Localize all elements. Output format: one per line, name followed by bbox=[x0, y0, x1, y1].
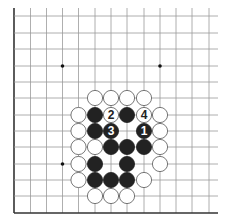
black-stone-move-3: 3 bbox=[103, 123, 118, 138]
star-point-icon bbox=[61, 64, 65, 68]
star-point-icon bbox=[61, 162, 65, 166]
white-stone-icon bbox=[152, 139, 167, 154]
black-stone bbox=[103, 172, 118, 187]
white-stone-icon bbox=[87, 188, 102, 203]
white-stone-icon bbox=[103, 188, 118, 203]
black-stone-icon bbox=[119, 172, 134, 187]
white-stone-icon bbox=[71, 123, 86, 138]
white-stone-icon bbox=[87, 139, 102, 154]
white-stone-icon bbox=[103, 90, 118, 105]
white-stone-icon bbox=[152, 156, 167, 171]
white-stone bbox=[103, 90, 118, 105]
white-stone-icon bbox=[152, 107, 167, 122]
white-stone bbox=[119, 90, 134, 105]
black-stone bbox=[87, 123, 102, 138]
move-number-label: 3 bbox=[108, 124, 115, 138]
white-stone bbox=[71, 107, 86, 122]
black-stone-icon bbox=[87, 107, 102, 122]
black-stone-icon bbox=[119, 139, 134, 154]
white-stone-icon bbox=[136, 172, 151, 187]
black-stone-icon bbox=[119, 107, 134, 122]
black-stone-icon bbox=[119, 156, 134, 171]
white-stone-icon bbox=[119, 188, 134, 203]
white-stone-icon bbox=[71, 139, 86, 154]
go-board: 2431 bbox=[0, 0, 227, 222]
move-number-label: 1 bbox=[141, 124, 148, 138]
white-stone-icon bbox=[136, 90, 151, 105]
white-stone-icon bbox=[71, 156, 86, 171]
go-board-svg: 2431 bbox=[0, 0, 227, 222]
star-point-icon bbox=[158, 64, 162, 68]
black-stone bbox=[119, 156, 134, 171]
white-stone bbox=[71, 139, 86, 154]
black-stone-icon bbox=[87, 123, 102, 138]
white-stone-icon bbox=[71, 107, 86, 122]
black-stone bbox=[103, 139, 118, 154]
black-stone bbox=[87, 107, 102, 122]
white-stone bbox=[136, 90, 151, 105]
white-stone bbox=[71, 123, 86, 138]
white-stone bbox=[71, 172, 86, 187]
black-stone bbox=[87, 172, 102, 187]
move-number-label: 4 bbox=[141, 108, 148, 122]
black-stone-icon bbox=[136, 139, 151, 154]
white-stone bbox=[87, 188, 102, 203]
white-stone bbox=[152, 107, 167, 122]
black-stone-icon bbox=[103, 172, 118, 187]
white-stone-move-2: 2 bbox=[103, 107, 118, 122]
white-stone bbox=[136, 172, 151, 187]
white-stone bbox=[119, 188, 134, 203]
white-stone bbox=[71, 156, 86, 171]
white-stone bbox=[103, 188, 118, 203]
white-stone bbox=[152, 156, 167, 171]
white-stone-move-4: 4 bbox=[136, 107, 151, 122]
white-stone-icon bbox=[119, 90, 134, 105]
white-stone bbox=[87, 139, 102, 154]
white-stone bbox=[152, 123, 167, 138]
black-stone-icon bbox=[87, 156, 102, 171]
black-stone bbox=[119, 172, 134, 187]
stones: 2431 bbox=[71, 90, 168, 203]
black-stone bbox=[136, 139, 151, 154]
black-stone bbox=[119, 139, 134, 154]
black-stone bbox=[87, 156, 102, 171]
black-stone-icon bbox=[103, 139, 118, 154]
white-stone bbox=[87, 90, 102, 105]
move-number-label: 2 bbox=[108, 108, 115, 122]
black-stone-icon bbox=[87, 172, 102, 187]
white-stone-icon bbox=[71, 172, 86, 187]
white-stone-icon bbox=[152, 123, 167, 138]
black-stone-move-1: 1 bbox=[136, 123, 151, 138]
black-stone bbox=[119, 107, 134, 122]
white-stone bbox=[152, 139, 167, 154]
white-stone-icon bbox=[87, 90, 102, 105]
